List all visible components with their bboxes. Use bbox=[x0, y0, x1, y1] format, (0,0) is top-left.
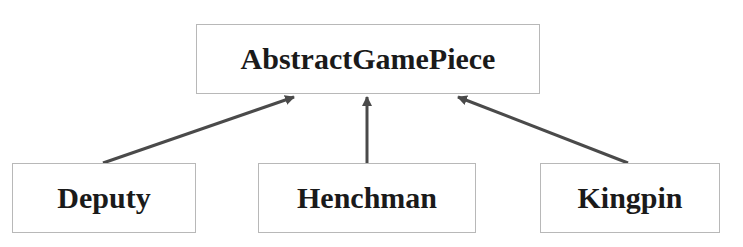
class-node-kingpin: Kingpin bbox=[540, 163, 720, 233]
class-label: Kingpin bbox=[577, 181, 682, 215]
edge-deputy-to-root bbox=[103, 97, 294, 163]
edge-kingpin-to-root bbox=[458, 97, 628, 163]
class-label: Henchman bbox=[297, 181, 437, 215]
class-label: Deputy bbox=[57, 181, 150, 215]
class-node-henchman: Henchman bbox=[258, 163, 476, 233]
class-node-deputy: Deputy bbox=[12, 163, 196, 233]
class-node-abstractgamepiece: AbstractGamePiece bbox=[196, 24, 540, 94]
class-label: AbstractGamePiece bbox=[241, 42, 496, 76]
